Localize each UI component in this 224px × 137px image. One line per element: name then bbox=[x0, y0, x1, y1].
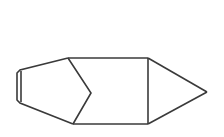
drawing-canvas bbox=[0, 0, 224, 137]
line-drawing bbox=[0, 0, 224, 137]
canvas-background bbox=[0, 0, 224, 137]
